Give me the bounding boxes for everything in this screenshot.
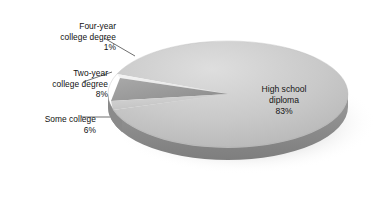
callout-two-year-college-degree: Two-year college degree 8% (0, 68, 108, 100)
pie-chart: Four-year college degree 1% Two-year col… (0, 0, 387, 209)
slice-label-high-school-value: 83% (236, 106, 332, 117)
callout-some-college-line1: Some college (0, 114, 96, 125)
callout-some-college: Some college 6% (0, 114, 96, 135)
slice-label-high-school-line2: diploma (236, 95, 332, 106)
callout-some-college-value: 6% (0, 125, 96, 136)
callout-two-year-line1: Two-year (0, 68, 108, 79)
callout-two-year-value: 8% (0, 89, 108, 100)
slice-label-high-school-diploma: High school diploma 83% (236, 84, 332, 118)
callout-two-year-line2: college degree (0, 79, 108, 90)
slice-label-high-school-line1: High school (236, 84, 332, 95)
callout-four-year-college-degree: Four-year college degree 1% (8, 21, 116, 53)
callout-four-year-line1: Four-year (8, 21, 116, 32)
callout-four-year-value: 1% (8, 42, 116, 53)
callout-four-year-line2: college degree (8, 32, 116, 43)
